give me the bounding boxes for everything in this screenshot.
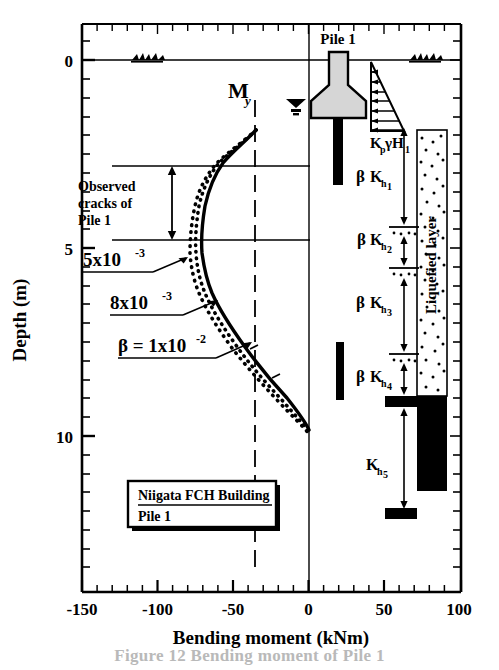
curve-label-8e-3-sup: -3: [162, 289, 172, 303]
soil-profile-column: Liquefied layer: [417, 130, 447, 491]
chart-svg: -150 -100 -50 0 50 100 0 5 10 Bending mo…: [0, 0, 499, 670]
curve-label-8e-3-text: 8x10: [110, 292, 148, 313]
x-tick-label-0: -150: [66, 600, 97, 619]
y-axis-title: Depth (m): [9, 279, 31, 362]
beta-4: β: [356, 367, 365, 386]
liquefied-layer-label: Liquefied layer: [423, 216, 439, 314]
curve-label-5e-3-sup: -3: [135, 246, 145, 260]
x-tick-label-2: -50: [222, 600, 245, 619]
curve-label-5e-3-text: 5x10: [83, 249, 121, 270]
k-2-idx: 2: [387, 244, 392, 255]
x-tick-label-5: 100: [446, 600, 472, 619]
pile-title-label: Pile 1: [320, 31, 355, 47]
gamma-h-label: γH: [384, 135, 404, 151]
k-4-idx: 4: [387, 381, 392, 392]
x-tick-label-4: 50: [376, 600, 393, 619]
x-tick-label-3: 0: [304, 600, 313, 619]
y-tick-label-0: 0: [65, 52, 74, 71]
observed-cracks-line-2: cracks of: [78, 196, 132, 211]
curve-label-1e-2-text: β = 1x10: [118, 335, 186, 356]
figure-bending-moment-pile1: -150 -100 -50 0 50 100 0 5 10 Bending mo…: [0, 0, 499, 670]
x-tick-label-1: -100: [142, 600, 173, 619]
k-5-idx: 5: [383, 469, 388, 480]
my-subscript: y: [243, 93, 251, 108]
figure-caption-partial: Figure 12 Bending moment of Pile 1: [0, 646, 499, 670]
y-tick-label-1: 5: [65, 240, 74, 259]
beta-1: β: [356, 167, 365, 186]
beta-3: β: [356, 293, 365, 312]
beta-2: β: [357, 230, 366, 249]
k-3-idx: 3: [387, 307, 392, 318]
y-tick-label-2: 10: [56, 428, 73, 447]
legend-box: Niigata FCH Building Pile 1: [128, 481, 280, 531]
observed-cracks-line-3: Pile 1: [78, 213, 111, 228]
pile-shaft-upper: [333, 118, 343, 185]
legend-line-2: Pile 1: [138, 509, 171, 524]
observed-cracks-line-1: Observed: [78, 179, 136, 194]
h1-subscript: 1: [405, 144, 410, 155]
non-liquefied-layer: [417, 396, 447, 491]
legend-line-1: Niigata FCH Building: [138, 488, 269, 503]
k-1-idx: 1: [387, 181, 392, 192]
pile-crack-marker: [336, 342, 344, 400]
curve-label-1e-2-sup: -2: [196, 332, 206, 346]
